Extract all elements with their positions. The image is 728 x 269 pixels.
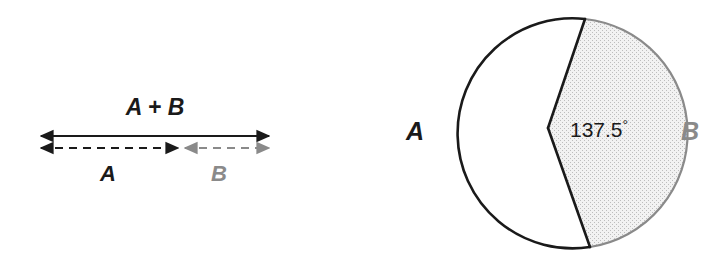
angle-value-label: 137.5° xyxy=(570,117,628,141)
sector-b-label: B xyxy=(681,117,699,145)
total-length-label: A + B xyxy=(125,94,185,120)
degree-symbol-icon: ° xyxy=(623,117,629,133)
sector-a-label: A xyxy=(405,117,424,145)
segment-b-label: B xyxy=(211,161,227,186)
angle-number: 137.5 xyxy=(570,118,623,141)
line-segment-group xyxy=(41,136,269,148)
segment-a-label: A xyxy=(99,161,116,186)
figure-svg: A + B A B A B 137.5° xyxy=(0,0,728,269)
figure-canvas: A + B A B A B 137.5° xyxy=(0,0,728,269)
